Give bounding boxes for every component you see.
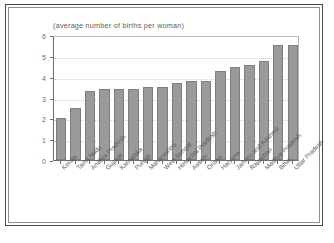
x-tick-mark — [133, 161, 134, 164]
figure-outer-frame: (average number of births per woman) 012… — [5, 4, 323, 226]
y-tick-label: 3 — [42, 95, 46, 102]
bar — [215, 71, 225, 160]
y-tick-label: 0 — [42, 158, 46, 165]
x-tick-mark — [162, 161, 163, 164]
y-tick-label: 4 — [42, 74, 46, 81]
y-tick-label: 2 — [42, 116, 46, 123]
y-axis: 0123456 — [6, 5, 53, 225]
x-axis: KeralaTamil NaduAndhra PradeshGujaratKar… — [53, 161, 299, 231]
y-tick-label: 6 — [42, 33, 46, 40]
bar — [273, 45, 283, 160]
y-tick-label: 1 — [42, 137, 46, 144]
y-tick-label: 5 — [42, 53, 46, 60]
bar — [230, 67, 240, 160]
chart-title: (average number of births per woman) — [53, 21, 184, 30]
bar — [56, 118, 66, 160]
bar — [143, 87, 153, 160]
